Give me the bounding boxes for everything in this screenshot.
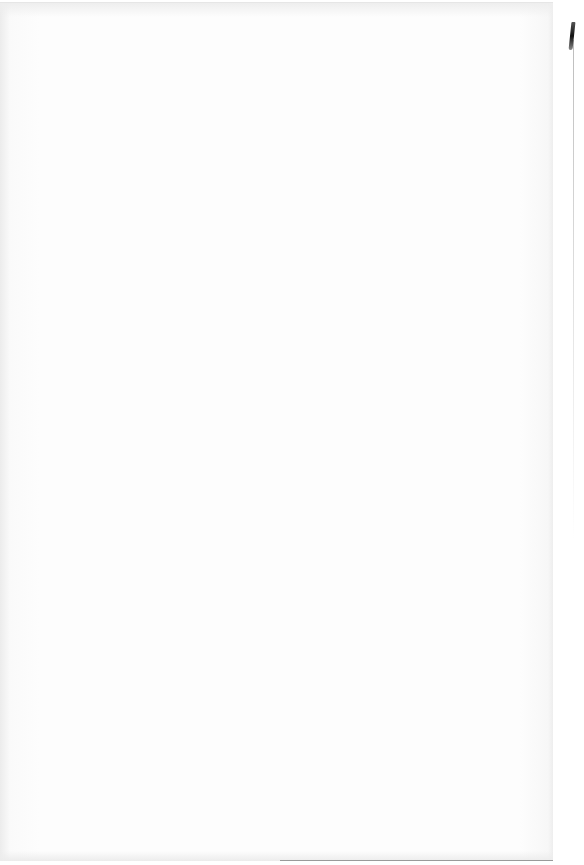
page-right-margin xyxy=(553,0,584,865)
page-top-shadow xyxy=(0,3,556,17)
page-right-edge-line xyxy=(573,40,574,540)
blank-scanned-page xyxy=(0,2,556,861)
page-bottom-edge xyxy=(280,860,555,861)
